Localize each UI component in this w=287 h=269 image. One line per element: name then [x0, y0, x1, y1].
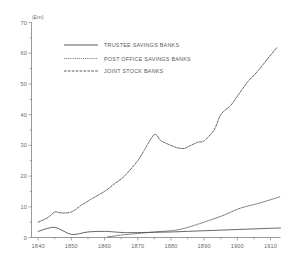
x-tick-label: 1880: [164, 243, 177, 249]
y-tick-label: 10: [20, 204, 27, 210]
legend-label: JOINT STOCK BANKS: [104, 68, 164, 74]
x-tick-label: 1870: [131, 243, 144, 249]
y-tick-label: 0: [24, 235, 27, 241]
y-tick-label: 30: [20, 142, 27, 148]
legend-label: POST OFFICE SAVINGS BANKS: [104, 56, 191, 62]
legend-label: TRUSTEE SAVINGS BANKS: [104, 42, 179, 48]
x-tick-label: 1890: [198, 243, 211, 249]
series-line-trustee-savings-banks: [38, 227, 280, 234]
y-tick-label: 20: [20, 173, 27, 179]
chart-canvas: 010203040506070 184018501860187018801890…: [0, 0, 287, 269]
x-axis: 18401850186018701880189019001910: [32, 238, 281, 249]
x-tick-label: 1900: [231, 243, 244, 249]
x-tick-label: 1910: [264, 243, 277, 249]
y-tick-label: 50: [20, 81, 27, 87]
x-tick-label: 1850: [65, 243, 78, 249]
series-layer: [38, 47, 280, 237]
chart-legend: TRUSTEE SAVINGS BANKSPOST OFFICE SAVINGS…: [64, 42, 191, 74]
y-axis: 010203040506070: [20, 20, 31, 241]
y-axis-unit-label: (£m): [32, 14, 44, 20]
x-tick-label: 1840: [32, 243, 45, 249]
y-tick-label: 70: [20, 20, 27, 26]
line-chart-figure: 010203040506070 184018501860187018801890…: [0, 0, 287, 269]
y-tick-label: 40: [20, 112, 27, 118]
y-tick-label: 60: [20, 50, 27, 56]
x-tick-label: 1860: [98, 243, 111, 249]
